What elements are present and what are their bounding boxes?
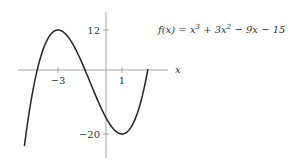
function-plot: −31 12−20 x f(x) = x3 + 3x2 − 9x − 15 — [0, 0, 297, 164]
x-tick-label: −3 — [51, 75, 66, 86]
x-tick-label: 1 — [119, 75, 125, 86]
y-tick-label: −20 — [79, 129, 100, 140]
x-axis-label: x — [175, 64, 181, 75]
y-tick-label: 12 — [87, 25, 100, 36]
function-label: f(x) = x3 + 3x2 − 9x − 15 — [157, 23, 285, 35]
